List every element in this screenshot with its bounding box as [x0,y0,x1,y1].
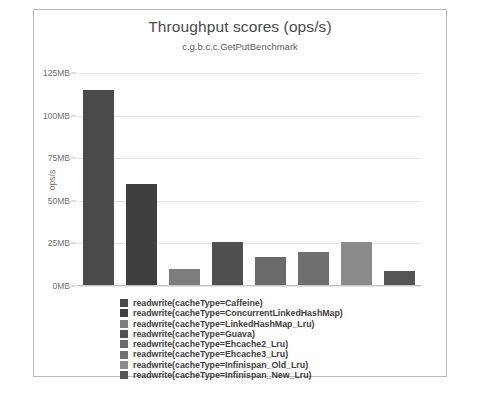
legend-item-label: readwrite(cacheType=Infinispan_Old_Lru) [133,360,308,370]
legend-item[interactable]: readwrite(cacheType=ConcurrentLinkedHash… [120,308,343,318]
bar[interactable] [384,271,414,286]
legend-swatch-icon [120,309,128,317]
legend-item-label: readwrite(cacheType=Ehcache2_Lru) [133,339,288,349]
y-tick-label: 75MB [48,153,70,163]
chart-subtitle: c.g.b.c.c.GetPutBenchmark [34,41,446,52]
legend-item-label: readwrite(cacheType=ConcurrentLinkedHash… [133,308,343,318]
bar[interactable] [83,90,113,286]
legend-item[interactable]: readwrite(cacheType=Ehcache3_Lru) [120,349,343,359]
legend-item[interactable]: readwrite(cacheType=Infinispan_New_Lru) [120,370,343,380]
gridline [77,116,421,117]
y-tick-label: 0MB [53,281,70,291]
y-tick-mark [71,286,76,287]
legend-swatch-icon [120,299,128,307]
bar[interactable] [212,242,242,286]
gridline [77,73,421,74]
x-axis-line [77,285,421,286]
chart-card: Throughput scores (ops/s) c.g.b.c.c.GetP… [33,9,447,377]
bar[interactable] [169,269,199,286]
bar[interactable] [126,184,156,286]
bar[interactable] [255,257,285,286]
legend-item-label: readwrite(cacheType=Infinispan_New_Lru) [133,370,312,380]
y-axis-label: ops/s [47,169,57,189]
legend-item-label: readwrite(cacheType=Ehcache3_Lru) [133,349,288,359]
y-tick-label: 100MB [43,111,70,121]
y-tick-mark [71,200,76,201]
y-tick-mark [71,158,76,159]
legend: readwrite(cacheType=Caffeine)readwrite(c… [120,298,343,380]
legend-swatch-icon [120,340,128,348]
chart-title: Throughput scores (ops/s) [34,18,446,36]
legend-swatch-icon [120,320,128,328]
legend-item-label: readwrite(cacheType=LinkedHashMap_Lru) [133,319,314,329]
legend-swatch-icon [120,361,128,369]
gridline [77,286,421,287]
y-tick-mark [71,115,76,116]
y-tick-label: 25MB [48,238,70,248]
bar[interactable] [298,252,328,286]
y-tick-mark [71,73,76,74]
y-tick-label: 125MB [43,68,70,78]
y-tick-label: 50MB [48,196,70,206]
gridline [77,158,421,159]
y-tick-mark [71,243,76,244]
legend-item[interactable]: readwrite(cacheType=Caffeine) [120,298,343,308]
legend-item[interactable]: readwrite(cacheType=LinkedHashMap_Lru) [120,319,343,329]
legend-item-label: readwrite(cacheType=Caffeine) [133,298,263,308]
legend-swatch-icon [120,351,128,359]
legend-item-label: readwrite(cacheType=Guava) [133,329,255,339]
legend-swatch-icon [120,330,128,338]
legend-item[interactable]: readwrite(cacheType=Infinispan_Old_Lru) [120,360,343,370]
bar[interactable] [341,242,371,286]
legend-item[interactable]: readwrite(cacheType=Guava) [120,329,343,339]
legend-item[interactable]: readwrite(cacheType=Ehcache2_Lru) [120,339,343,349]
plot-area: ops/s 0MB25MB50MB75MB100MB125MB [77,73,421,286]
legend-swatch-icon [120,371,128,379]
